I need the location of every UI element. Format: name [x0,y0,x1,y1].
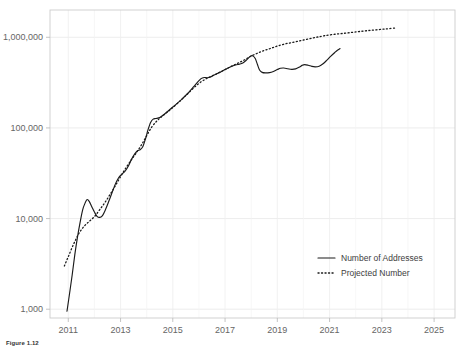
caption-label: Figure 1.12 [6,340,39,346]
x-tick-label: 2011 [59,325,78,335]
figure-caption: Figure 1.12 [6,340,39,346]
x-tick-label: 2025 [424,325,444,335]
line-chart: 1,00010,000100,0001,000,0002011201320152… [0,0,466,348]
x-tick-label: 2021 [320,325,340,335]
y-tick-label: 100,000 [10,123,43,133]
y-tick-label: 1,000,000 [3,32,43,42]
x-tick-label: 2023 [372,325,392,335]
y-axis: 1,00010,000100,0001,000,000 [3,32,50,314]
x-tick-label: 2013 [111,325,131,335]
y-tick-label: 1,000 [20,304,43,314]
x-axis: 20112013201520172019202120232025 [59,318,445,335]
x-tick-label: 2017 [215,325,235,335]
x-tick-label: 2015 [163,325,183,335]
legend-label: Number of Addresses [341,253,423,263]
y-tick-label: 10,000 [15,214,43,224]
legend-label: Projected Number [341,268,410,278]
figure-container: 1,00010,000100,0001,000,0002011201320152… [0,0,466,348]
x-tick-label: 2019 [267,325,287,335]
